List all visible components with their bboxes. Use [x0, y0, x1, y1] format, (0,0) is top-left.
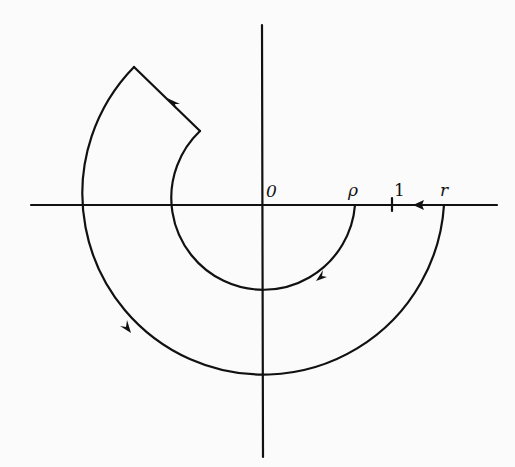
unit-label: 1: [394, 182, 405, 199]
contour-diagram: 0 ρ 1 r: [0, 0, 515, 467]
vertical-axis: [262, 25, 263, 457]
origin-label: 0: [266, 183, 277, 200]
r-label: r: [440, 182, 448, 199]
arrow-outer-icon: [120, 320, 131, 333]
radial-segment: [134, 67, 200, 131]
diagram-svg: [0, 0, 515, 467]
arrow-radial-icon: [167, 98, 180, 109]
rho-label: ρ: [348, 182, 358, 199]
